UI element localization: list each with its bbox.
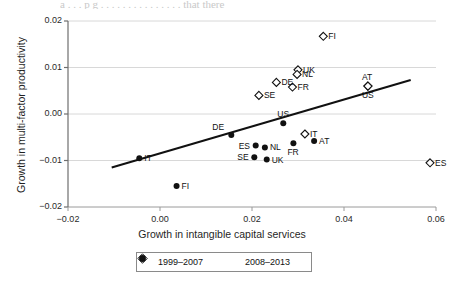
data-point	[174, 183, 180, 189]
y-tick-label: −0.02	[22, 201, 62, 211]
data-point	[290, 140, 296, 146]
data-point-label: DE	[281, 78, 293, 87]
data-point	[264, 157, 270, 163]
legend: 1999–2007 2008–2013	[136, 252, 312, 272]
data-point-label: ES	[435, 159, 446, 168]
data-point	[272, 78, 280, 86]
x-axis-title: Growth in intangible capital services	[0, 228, 444, 240]
x-tick-label: 0.02	[230, 214, 274, 224]
legend-item-0[interactable]: 1999–2007	[158, 257, 203, 267]
y-tick-label: 0.02	[22, 15, 62, 25]
data-point-label: US	[277, 110, 289, 119]
data-point-label: FR	[287, 148, 298, 157]
legend-item-1[interactable]: 2008–2013	[245, 257, 290, 267]
data-point-label: NL	[270, 143, 281, 152]
data-point-label: IT	[310, 130, 318, 139]
data-point	[262, 144, 268, 150]
data-point-label: NL	[302, 70, 313, 79]
data-point-label: UK	[272, 156, 284, 165]
data-point-label: SE	[237, 153, 248, 162]
y-tick-label: 0.00	[22, 108, 62, 118]
x-tick-label: 0.06	[414, 214, 451, 224]
data-point-label: AT	[319, 137, 329, 146]
data-point	[301, 130, 309, 138]
x-tick-label: 0.00	[138, 214, 182, 224]
data-point	[280, 120, 286, 126]
legend-label-1: 2008–2013	[245, 257, 290, 267]
data-point	[253, 143, 259, 149]
data-point-label: DE	[212, 123, 224, 132]
data-point	[251, 154, 257, 160]
data-point-label: FI	[328, 32, 336, 41]
x-tick-label: 0.04	[322, 214, 366, 224]
data-point-label: FR	[297, 83, 308, 92]
x-tick-label: −0.02	[46, 214, 90, 224]
data-point-label: ES	[239, 142, 250, 151]
y-tick-label: −0.01	[22, 155, 62, 165]
data-point-label: SE	[264, 91, 275, 100]
legend-label-0: 1999–2007	[158, 257, 203, 267]
data-point	[136, 155, 142, 161]
data-point-label: AT	[362, 73, 372, 82]
data-point	[319, 32, 327, 40]
y-tick-label: 0.01	[22, 62, 62, 72]
filled-circle-icon	[137, 253, 148, 264]
data-point	[228, 132, 234, 138]
data-point-label: FI	[182, 182, 190, 191]
data-point-label: US	[362, 91, 374, 100]
data-point	[364, 82, 372, 90]
data-point	[255, 91, 263, 99]
data-point-label: IT	[144, 154, 152, 163]
